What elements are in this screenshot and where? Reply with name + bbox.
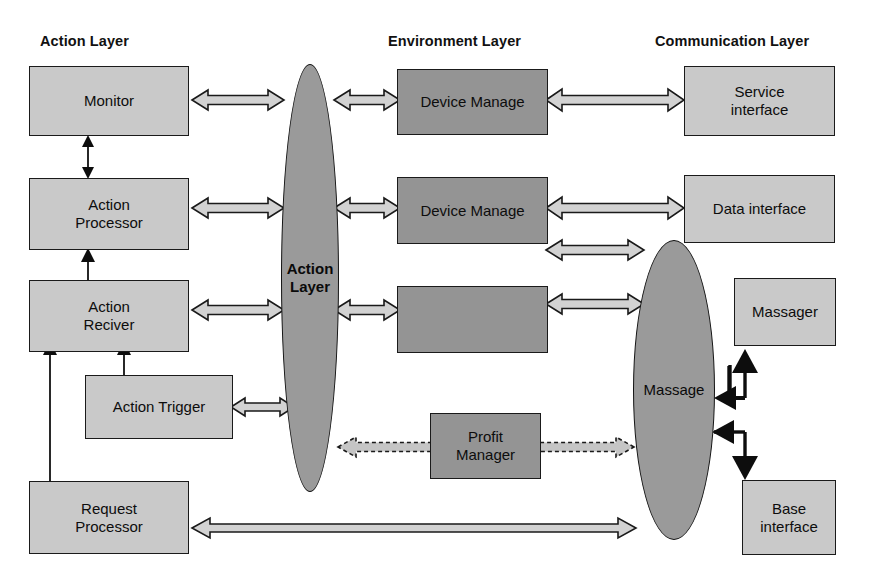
- node-device-manage-2[interactable]: Device Manage: [397, 177, 548, 244]
- node-service-interface[interactable]: Service interface: [684, 66, 835, 136]
- connector-device-manage-2-to-data-interface: [546, 197, 684, 219]
- connector-monitor-to-action-processor: [82, 135, 94, 179]
- node-service-interface-label-line1: Service: [734, 83, 784, 101]
- node-action-reciver[interactable]: Action Reciver: [29, 280, 189, 352]
- connector-request-processor-to-massage: [192, 518, 636, 538]
- connector-profit-manager-to-massage: [540, 437, 634, 457]
- node-action-reciver-label-line1: Action: [88, 298, 130, 316]
- node-profit-manager-label-line1: Profit: [468, 428, 503, 446]
- node-data-interface[interactable]: Data interface: [684, 175, 835, 243]
- connector-device-manage-3-to-massage: [546, 294, 644, 314]
- node-service-interface-label-line2: interface: [731, 101, 789, 119]
- connector-action-trigger-to-action-layer: [231, 398, 294, 416]
- node-device-manage-3[interactable]: [397, 286, 548, 353]
- ellipse-action-layer-line2: Layer: [290, 278, 330, 295]
- node-massager-label: Massager: [752, 303, 818, 321]
- node-base-interface-label-line1: Base: [772, 500, 806, 518]
- node-request-processor-label-line2: Processor: [75, 518, 143, 536]
- node-action-processor-label-line1: Action: [88, 196, 130, 214]
- ellipse-massage[interactable]: Massage: [633, 240, 715, 540]
- connector-action-layer-to-device-manage-3: [334, 300, 400, 320]
- node-profit-manager-label-line2: Manager: [456, 446, 515, 464]
- connector-massage-to-base-interface: [712, 420, 758, 480]
- connector-action-layer-to-device-manage-1: [334, 90, 400, 110]
- node-device-manage-1[interactable]: Device Manage: [397, 69, 548, 135]
- node-monitor[interactable]: Monitor: [29, 66, 189, 136]
- node-action-processor-label-line2: Processor: [75, 214, 143, 232]
- node-monitor-label: Monitor: [84, 92, 134, 110]
- node-action-trigger[interactable]: Action Trigger: [85, 375, 233, 439]
- node-action-reciver-label-line2: Reciver: [84, 316, 135, 334]
- node-massager[interactable]: Massager: [734, 278, 836, 346]
- node-action-processor[interactable]: Action Processor: [29, 178, 189, 250]
- ellipse-massage-line1: Massage: [644, 381, 705, 399]
- node-action-trigger-label: Action Trigger: [113, 398, 206, 416]
- connector-profit-manager-to-action-layer: [338, 437, 432, 457]
- connector-monitor-to-action-layer: [192, 90, 284, 110]
- node-request-processor[interactable]: Request Processor: [29, 481, 189, 554]
- connector-action-reciver-to-action-layer: [192, 300, 284, 320]
- node-profit-manager[interactable]: Profit Manager: [430, 413, 541, 479]
- node-device-manage-2-label: Device Manage: [420, 202, 524, 220]
- connector-massage-to-massager: [714, 349, 758, 410]
- node-device-manage-1-label: Device Manage: [420, 93, 524, 111]
- connector-device-manage-2-to-massage: [546, 240, 644, 260]
- connector-action-processor-to-action-layer: [192, 198, 284, 218]
- node-base-interface-label-line2: interface: [760, 518, 818, 536]
- node-data-interface-label: Data interface: [713, 200, 806, 218]
- node-request-processor-label-line1: Request: [81, 500, 137, 518]
- ellipse-action-layer-line1: Action: [287, 260, 334, 277]
- diagram-canvas: Action Layer Environment Layer Communica…: [0, 0, 883, 582]
- connector-request-processor-to-action-reciver: [43, 341, 57, 482]
- connector-action-layer-to-device-manage-2: [334, 198, 400, 218]
- ellipse-action-layer[interactable]: Action Layer: [281, 64, 339, 492]
- connector-device-manage-1-to-service-interface: [546, 89, 684, 111]
- node-base-interface[interactable]: Base interface: [742, 480, 836, 555]
